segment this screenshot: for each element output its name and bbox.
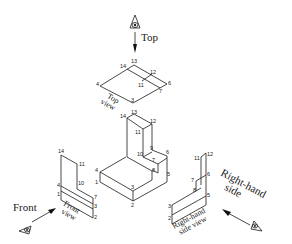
- right-view-point-7: 7: [191, 177, 194, 183]
- right-view-point-12: 12: [207, 151, 213, 157]
- block-point-8: 8: [152, 167, 155, 173]
- right-side-view-label: Right-hand side view: [171, 206, 211, 238]
- top-view-label: Top view: [99, 90, 121, 113]
- front-view-point-2: 2: [94, 214, 97, 220]
- block-point-7: 7: [152, 157, 155, 163]
- projection-diagram: Top 13 14 12 4 11 6 7 3 Top view: [0, 0, 292, 244]
- top-viewer-label: Top: [141, 31, 158, 43]
- front-view-point-14: 14: [58, 148, 64, 154]
- right-viewer-label: Right-hand side: [214, 166, 269, 210]
- block-point-4: 4: [95, 167, 98, 173]
- right-view-point-5: 5: [207, 192, 210, 198]
- right-view-point-2: 2: [168, 215, 171, 221]
- top-view-point-4: 4: [96, 81, 99, 87]
- front-view-point-11: 11: [79, 161, 85, 167]
- block-point-6: 6: [166, 149, 169, 155]
- right-view-point-8: 8: [193, 187, 196, 193]
- block-point-1: 1: [95, 179, 98, 185]
- right-view-point-6: 6: [207, 171, 210, 177]
- block-point-12: 12: [150, 118, 156, 124]
- front-view-point-1: 1: [57, 191, 60, 197]
- right-view-point-11: 11: [194, 155, 200, 161]
- front-view-point-3: 3: [94, 203, 97, 209]
- top-view-point-13: 13: [131, 58, 137, 64]
- right-arrow: [222, 209, 250, 225]
- front-view-point-4: 4: [57, 182, 60, 188]
- top-view-point-3: 3: [131, 97, 134, 103]
- front-eye-icon: [19, 226, 31, 234]
- block-point-5: 5: [167, 171, 170, 177]
- block-point-3: 3: [131, 184, 134, 190]
- front-view-label: Front view: [58, 199, 82, 223]
- block-point-10: 10: [137, 151, 143, 157]
- front-viewer-label: Front: [13, 201, 37, 213]
- right-eye-icon: [251, 221, 262, 231]
- block-point-9: 9: [150, 145, 153, 151]
- top-eye-icon: [130, 15, 140, 28]
- block-point-2: 2: [131, 202, 134, 208]
- front-view-point-10: 10: [78, 180, 84, 186]
- block-point-13: 13: [131, 109, 137, 115]
- block-point-11: 11: [135, 129, 141, 135]
- top-view-point-14: 14: [120, 63, 126, 69]
- right-view-point-3: 3: [168, 203, 171, 209]
- top-view-point-11: 11: [138, 82, 144, 88]
- top-view-point-6: 6: [168, 80, 171, 86]
- front-view-point-7: 7: [94, 194, 97, 200]
- block-point-14: 14: [120, 113, 126, 119]
- top-arrow: [133, 32, 137, 53]
- top-view-point-7: 7: [159, 88, 162, 94]
- top-view-point-12: 12: [150, 69, 156, 75]
